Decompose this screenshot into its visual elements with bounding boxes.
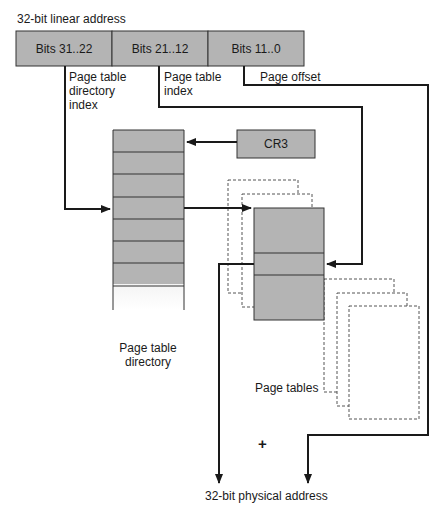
directory-label: Page table directory: [100, 341, 196, 369]
field-bits-11-0: Bits 11..0: [208, 42, 304, 56]
physical-address-label: 32-bit physical address: [205, 489, 328, 503]
field-bits-21-12: Bits 21..12: [112, 42, 208, 56]
cr3-label: CR3: [237, 137, 315, 151]
table-index-caption: Page table index: [164, 70, 221, 98]
field-bits-31-22: Bits 31..22: [16, 42, 112, 56]
page-offset-caption: Page offset: [260, 70, 321, 84]
paging-diagram: [0, 0, 444, 512]
page-tables-stack-front: [324, 279, 419, 419]
linear-address-title: 32-bit linear address: [17, 12, 126, 26]
directory-index-caption: Page table directory index: [69, 70, 126, 112]
plus-operator: +: [258, 437, 267, 451]
page-table-directory: [113, 130, 184, 310]
page-tables-label: Page tables: [255, 381, 318, 395]
page-table: [254, 208, 324, 320]
